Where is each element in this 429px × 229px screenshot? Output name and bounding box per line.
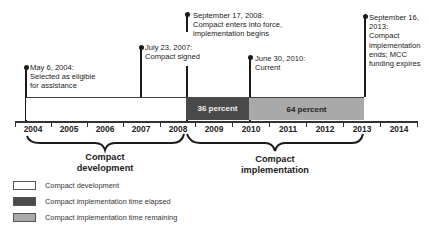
brace-implementation [187, 134, 363, 151]
brace-development [0, 0, 429, 229]
phase-label-development: Compact development [55, 152, 155, 174]
legend-item-elapsed: Compact implementation time elapsed [13, 196, 171, 206]
legend-item-development: Compact development [13, 180, 119, 190]
phase-label-implementation: Compact implementation [225, 154, 325, 176]
legend-item-remaining: Compact implementation time remaining [13, 212, 177, 222]
legend-swatch-white [13, 181, 36, 190]
legend-swatch-dark [13, 197, 36, 206]
legend-swatch-gray [13, 213, 36, 222]
